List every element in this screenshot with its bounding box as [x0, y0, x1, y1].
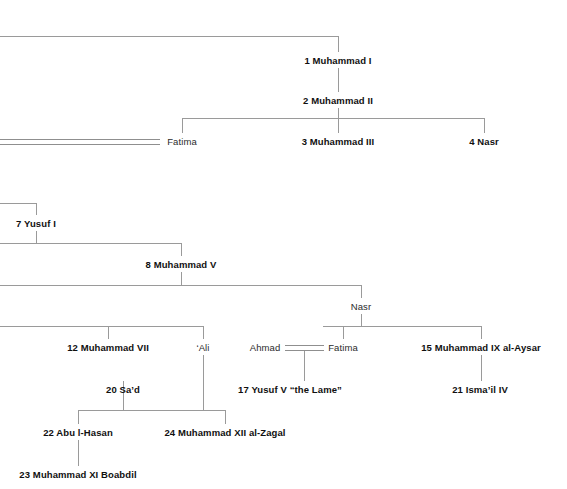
muhammad12-up	[225, 410, 226, 424]
muhammad2-down	[338, 108, 339, 118]
ahmad-fatima-down	[304, 350, 305, 381]
nasr-children-bar	[323, 326, 481, 327]
person-label-muhammad1: 1 Muhammad I	[304, 55, 371, 66]
sad-children-bar	[78, 410, 123, 411]
muhammad5-up	[181, 243, 182, 256]
yusuf1-parent-bar	[0, 203, 36, 204]
nasr-up	[361, 285, 362, 298]
muhammad3-up	[338, 118, 339, 133]
fatima1-marriage	[0, 139, 160, 145]
person-label-fatima2: Fatima	[328, 342, 358, 353]
person-label-yusuf5: 17 Yusuf V “the Lame”	[238, 384, 342, 395]
top-sibling-bar	[0, 36, 338, 37]
muhammad5-down	[181, 272, 182, 285]
muhammad1-up	[338, 36, 339, 52]
person-label-yusuf1: 7 Yusuf I	[16, 218, 56, 229]
fatima2-up	[343, 326, 344, 339]
family-tree-canvas: 1 Muhammad I2 Muhammad IIFatima3 Muhamma…	[0, 0, 567, 489]
person-label-muhammad3: 3 Muhammad III	[302, 136, 375, 147]
ali-children-bar	[123, 410, 225, 411]
muhammad5-sibling-bar	[0, 326, 203, 327]
person-label-ismail4: 21 Isma’il IV	[452, 384, 508, 395]
ali-up	[203, 326, 204, 339]
person-label-muhammad9: 15 Muhammad IX al-Aysar	[421, 342, 541, 353]
person-label-nasr: Nasr	[351, 301, 371, 312]
person-label-abulhasan: 22 Abu l-Hasan	[43, 427, 113, 438]
person-label-muhammad7: 12 Muhammad VII	[67, 342, 149, 353]
ahmad-fatima-marriage	[285, 345, 324, 351]
muhammad7-up	[108, 326, 109, 339]
muhammad5-children-bar	[0, 285, 361, 286]
yusuf1-down	[36, 231, 37, 243]
person-label-fatima1: Fatima	[167, 136, 197, 147]
muhammad9-down	[481, 355, 482, 381]
person-label-boabdil: 23 Muhammad XI Boabdil	[19, 469, 136, 480]
person-label-ali: ‘Ali	[196, 342, 209, 353]
yusuf1-children-bar	[0, 243, 181, 244]
person-label-ahmad: Ahmad	[250, 342, 281, 353]
boabdil-up	[78, 440, 79, 466]
muhammad9-up	[481, 326, 482, 339]
ali-down	[203, 355, 204, 410]
nasr-down	[361, 314, 362, 326]
abulhasan-up	[78, 410, 79, 424]
person-label-sad20: 20 Sa’d	[106, 384, 140, 395]
person-label-muhammad2: 2 Muhammad II	[303, 95, 373, 106]
fatima1-up	[182, 118, 183, 133]
person-label-nasr4: 4 Nasr	[469, 136, 499, 147]
muhammad1-down	[338, 68, 339, 92]
yusuf1-up	[36, 203, 37, 215]
nasr4-up	[484, 118, 485, 133]
muhammad2-children-bar	[182, 118, 484, 119]
person-label-muhammad5: 8 Muhammad V	[146, 259, 217, 270]
person-label-muhammad12: 24 Muhammad XII al-Zagal	[164, 427, 285, 438]
